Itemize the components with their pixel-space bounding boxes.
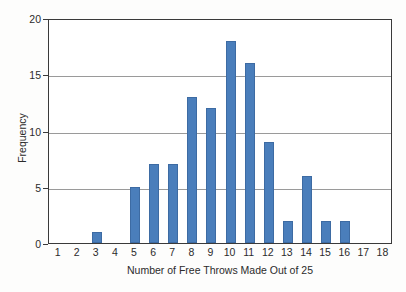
- y-tick-label-5: 5: [35, 182, 41, 194]
- bar-15: [321, 221, 331, 244]
- plot-area: [48, 19, 392, 244]
- bar-12: [264, 142, 274, 243]
- bars-layer: [49, 20, 391, 243]
- x-tick-label-3: 3: [93, 246, 99, 258]
- y-tick-label-15: 15: [29, 69, 41, 81]
- y-tick-mark: [43, 244, 48, 245]
- x-tick-label-2: 2: [74, 246, 80, 258]
- x-tick-label-16: 16: [338, 246, 350, 258]
- x-axis: 123456789101112131415161718: [48, 246, 392, 264]
- bar-3: [92, 232, 102, 243]
- x-tick-label-15: 15: [319, 246, 331, 258]
- bar-8: [187, 97, 197, 243]
- x-tick-label-14: 14: [300, 246, 312, 258]
- x-tick-label-13: 13: [281, 246, 293, 258]
- y-tick-label-10: 10: [29, 126, 41, 138]
- x-tick-label-8: 8: [188, 246, 194, 258]
- bar-7: [168, 164, 178, 243]
- x-tick-label-18: 18: [377, 246, 389, 258]
- histogram-chart: 05101520 Frequency 123456789101112131415…: [0, 0, 406, 292]
- x-tick-label-11: 11: [243, 246, 254, 258]
- bar-5: [130, 187, 140, 243]
- x-axis-title: Number of Free Throws Made Out of 25: [48, 264, 392, 276]
- bar-6: [149, 164, 159, 243]
- x-tick-label-4: 4: [112, 246, 118, 258]
- bar-13: [283, 221, 293, 244]
- y-axis-title: Frequency: [16, 83, 28, 193]
- y-tick-label-20: 20: [29, 13, 41, 25]
- y-tick-label-0: 0: [35, 238, 41, 250]
- bar-9: [206, 108, 216, 243]
- bar-14: [302, 176, 312, 244]
- bar-11: [245, 63, 255, 243]
- x-tick-label-7: 7: [169, 246, 175, 258]
- x-tick-label-12: 12: [262, 246, 274, 258]
- bar-10: [226, 41, 236, 244]
- x-tick-label-10: 10: [224, 246, 236, 258]
- x-tick-label-9: 9: [208, 246, 214, 258]
- x-tick-label-6: 6: [150, 246, 156, 258]
- x-tick-label-17: 17: [357, 246, 369, 258]
- bar-16: [340, 221, 350, 244]
- x-tick-label-1: 1: [55, 246, 61, 258]
- x-tick-label-5: 5: [131, 246, 137, 258]
